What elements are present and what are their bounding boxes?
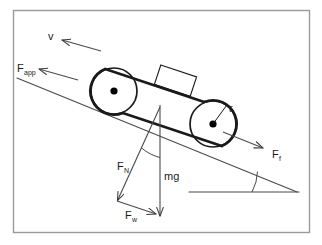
applied-force-label-sub: app [24, 69, 36, 77]
weight-component-label-sub: w [131, 216, 138, 223]
normal-gravity-angle-arc [142, 148, 160, 158]
applied-force-label: F app [17, 62, 36, 77]
friction-force-label-main: F [272, 148, 279, 160]
applied-force-vector [39, 69, 78, 80]
normal-force-label-sub: N [124, 167, 129, 174]
velocity-label: v [48, 30, 54, 42]
conveyor-belt [90, 69, 236, 146]
left-pulley [91, 68, 137, 114]
gravity-label: mg [164, 170, 179, 182]
physics-diagram-figure: v F app F f F N mg F w r [0, 0, 322, 245]
friction-force-label: F f [272, 148, 281, 162]
weight-component-vector [117, 201, 156, 214]
block-body [154, 65, 196, 96]
radius-line [213, 106, 227, 125]
normal-force-label: F N [117, 160, 129, 174]
friction-force-label-sub: f [279, 155, 281, 162]
block-on-belt [154, 65, 196, 96]
diagram-canvas: v F app F f F N mg F w r [0, 0, 322, 245]
weight-component-label: F w [125, 209, 138, 223]
radius-label: r [229, 102, 233, 114]
normal-force-label-main: F [117, 160, 124, 172]
figure-border [14, 11, 310, 233]
belt-left-wrap [90, 69, 122, 115]
applied-force-label-main: F [17, 62, 24, 74]
weight-component-label-main: F [125, 209, 132, 221]
velocity-vector [62, 40, 101, 51]
incline-surface-line [17, 78, 297, 192]
left-pulley-hub [110, 87, 117, 94]
